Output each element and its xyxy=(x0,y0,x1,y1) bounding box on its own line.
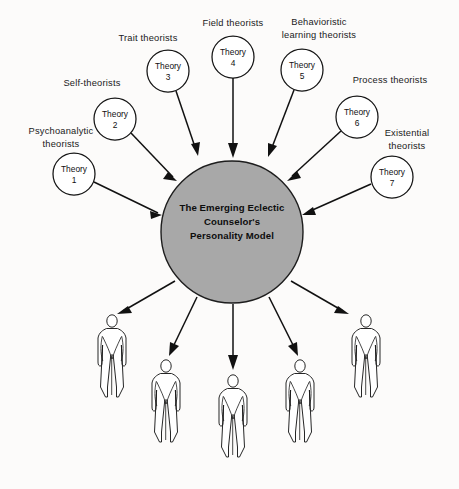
theory-1-label: Psychoanalytic theorists xyxy=(29,126,94,149)
hub-label-line-1: The Emerging Eclectic xyxy=(180,202,286,213)
theory-3-line-1: Theory xyxy=(155,61,182,71)
theory-4-label-line-1: Field theorists xyxy=(203,18,264,28)
theory-node-6[interactable]: Theory 6 xyxy=(336,96,378,138)
diagram-page: The Emerging Eclectic Counselor's Person… xyxy=(0,0,459,489)
figure-4[interactable] xyxy=(286,360,314,442)
theory-3-circle xyxy=(147,50,189,92)
theory-5-circle xyxy=(281,49,323,91)
eclectic-counselor-diagram: The Emerging Eclectic Counselor's Person… xyxy=(0,0,459,489)
theory-6-line-1: Theory xyxy=(344,107,371,117)
theory-2-line-1: Theory xyxy=(102,109,129,119)
theory-1-label-line-1: Psychoanalytic xyxy=(29,126,94,136)
theory-1-label-line-2: theorists xyxy=(43,139,80,149)
theory-5-line-2: 5 xyxy=(300,71,305,81)
theory-1-line-1: Theory xyxy=(61,164,88,174)
theory-7-label-line-2: theorists xyxy=(389,141,426,151)
theory-7-line-2: 7 xyxy=(390,178,395,188)
connector-theory-1 xyxy=(94,182,162,219)
theory-5-label: Behavioristic learning theorists xyxy=(282,17,357,40)
theory-node-2[interactable]: Theory 2 xyxy=(94,98,136,140)
connector-theory-4 xyxy=(228,78,238,158)
theory-7-label-line-1: Existential xyxy=(385,128,430,138)
theory-2-circle xyxy=(94,98,136,140)
theory-6-label: Process theorists xyxy=(353,75,428,85)
theory-2-label: Self-theorists xyxy=(63,78,120,88)
theory-node-1[interactable]: Theory 1 xyxy=(53,153,95,195)
theory-6-circle xyxy=(336,96,378,138)
outcome-figures xyxy=(98,315,380,457)
theory-4-line-1: Theory xyxy=(220,47,247,57)
theory-4-line-2: 4 xyxy=(231,58,236,68)
connector-figure-2 xyxy=(169,297,197,356)
connector-theory-5 xyxy=(268,90,294,157)
connector-figure-3 xyxy=(228,304,238,370)
theory-1-circle xyxy=(53,153,95,195)
theory-4-circle xyxy=(212,36,254,78)
theory-7-line-1: Theory xyxy=(379,167,406,177)
connector-figure-4 xyxy=(269,297,298,356)
theory-node-4[interactable]: Theory 4 xyxy=(212,36,254,78)
theory-1-line-2: 1 xyxy=(72,175,77,185)
theory-node-3[interactable]: Theory 3 xyxy=(147,50,189,92)
theory-6-label-line-1: Process theorists xyxy=(353,75,428,85)
theory-3-label: Trait theorists xyxy=(119,33,178,43)
hub-node[interactable]: The Emerging Eclectic Counselor's Person… xyxy=(161,161,303,303)
figure-5[interactable] xyxy=(352,315,380,397)
connector-theory-2 xyxy=(131,133,177,181)
figure-2[interactable] xyxy=(152,360,180,442)
theory-3-line-2: 3 xyxy=(166,72,171,82)
hub-label-line-2: Counselor's xyxy=(204,216,260,227)
theory-2-line-2: 2 xyxy=(113,120,118,130)
theory-5-label-line-1: Behavioristic xyxy=(291,17,346,27)
connector-theory-7 xyxy=(302,184,371,215)
theory-5-line-1: Theory xyxy=(289,60,316,70)
connector-theory-3 xyxy=(176,91,200,156)
theory-5-label-line-2: learning theorists xyxy=(282,30,357,40)
theory-4-label: Field theorists xyxy=(203,18,264,28)
theory-3-label-line-1: Trait theorists xyxy=(119,33,178,43)
hub-label-line-3: Personality Model xyxy=(190,230,274,241)
theory-7-label: Existential theorists xyxy=(385,128,430,151)
connector-figure-5 xyxy=(291,281,349,314)
theory-node-7[interactable]: Theory 7 xyxy=(371,156,413,198)
theory-2-label-line-1: Self-theorists xyxy=(63,78,120,88)
connector-figure-1 xyxy=(117,281,175,314)
theory-7-circle xyxy=(371,156,413,198)
figure-3[interactable] xyxy=(219,375,247,457)
theory-node-5[interactable]: Theory 5 xyxy=(281,49,323,91)
figure-1[interactable] xyxy=(98,315,126,397)
theory-6-line-2: 6 xyxy=(355,118,360,128)
connector-theory-6 xyxy=(287,131,341,181)
